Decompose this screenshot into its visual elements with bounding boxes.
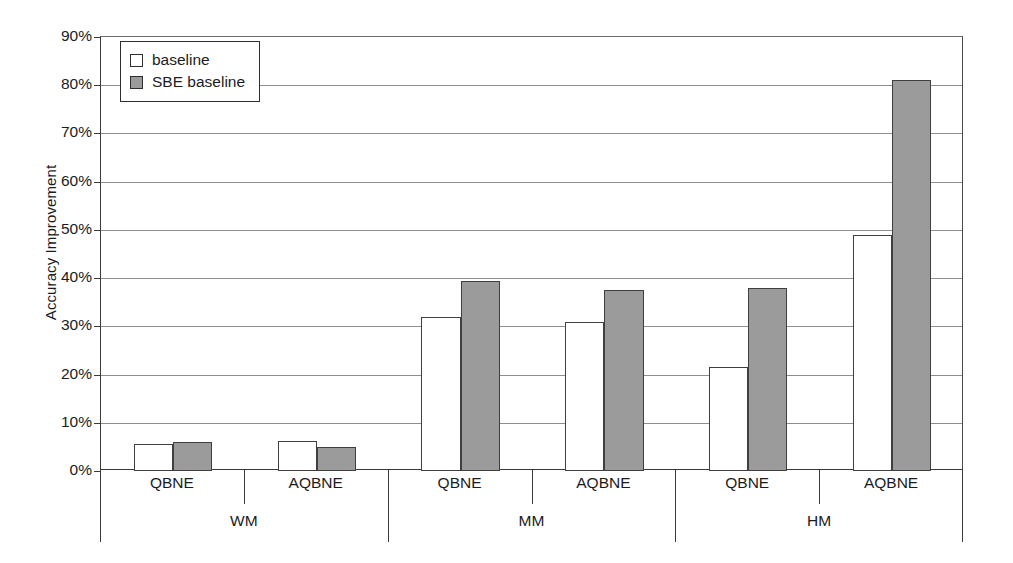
x-axis-group-separator — [675, 470, 676, 542]
x-axis-group-label: MM — [388, 513, 676, 529]
legend-item-label: SBE baseline — [152, 74, 245, 90]
x-axis: QBNEAQBNEQBNEAQBNEQBNEAQBNEWMMMHM — [100, 470, 963, 548]
y-axis-tick-label: 90% — [44, 28, 92, 44]
legend-item: baseline — [130, 49, 245, 71]
bar — [134, 444, 173, 471]
x-axis-category-label: QBNE — [388, 475, 532, 491]
x-axis-boundary — [100, 470, 101, 542]
x-axis-group-separator — [388, 470, 389, 542]
y-axis-tick-label: 20% — [44, 366, 92, 382]
x-axis-category-label: AQBNE — [819, 475, 963, 491]
bar — [173, 442, 212, 471]
x-axis-inner-separator — [244, 470, 245, 504]
y-axis-tick-label: 10% — [44, 414, 92, 430]
x-axis-inner-separator — [819, 470, 820, 504]
y-axis-tick-mark — [94, 230, 101, 231]
y-axis-tick-mark — [94, 133, 101, 134]
y-axis-tick-label: 30% — [44, 318, 92, 334]
y-axis-tick-label: 50% — [44, 221, 92, 237]
x-axis-category-label: AQBNE — [244, 475, 388, 491]
legend-item-label: baseline — [152, 52, 210, 68]
y-axis-tick-mark — [94, 423, 101, 424]
x-axis-inner-separator — [532, 470, 533, 504]
bar — [748, 288, 787, 471]
bar — [317, 447, 356, 471]
x-axis-category-label: QBNE — [675, 475, 819, 491]
bar-chart: Accuracy Improvement 0%10%20%30%40%50%60… — [0, 0, 1013, 563]
chart-legend: baselineSBE baseline — [120, 41, 260, 102]
y-axis-tick-labels: 0%10%20%30%40%50%60%70%80%90% — [44, 36, 92, 470]
white-square-icon — [130, 54, 143, 67]
bar — [709, 367, 748, 471]
bar — [565, 322, 604, 471]
bar — [461, 281, 500, 471]
x-axis-category-label: QBNE — [100, 475, 244, 491]
bar — [278, 441, 317, 471]
y-axis-tick-label: 40% — [44, 269, 92, 285]
y-axis-tick-label: 0% — [44, 462, 92, 478]
x-axis-group-label: WM — [100, 513, 388, 529]
bar — [853, 235, 892, 471]
bar — [421, 317, 460, 471]
y-axis-tick-mark — [94, 326, 101, 327]
x-axis-boundary — [962, 470, 963, 542]
y-axis-tick-mark — [94, 37, 101, 38]
y-axis-tick-label: 60% — [44, 173, 92, 189]
x-axis-group-label: HM — [675, 513, 963, 529]
y-axis-tick-mark — [94, 85, 101, 86]
gray-square-icon — [130, 76, 143, 89]
bar — [892, 80, 931, 471]
bar — [604, 290, 643, 471]
legend-item: SBE baseline — [130, 71, 245, 93]
y-axis-tick-mark — [94, 278, 101, 279]
y-axis-tick-mark — [94, 182, 101, 183]
y-axis-tick-label: 70% — [44, 125, 92, 141]
x-axis-category-label: AQBNE — [532, 475, 676, 491]
y-axis-tick-mark — [94, 375, 101, 376]
y-axis-tick-label: 80% — [44, 76, 92, 92]
